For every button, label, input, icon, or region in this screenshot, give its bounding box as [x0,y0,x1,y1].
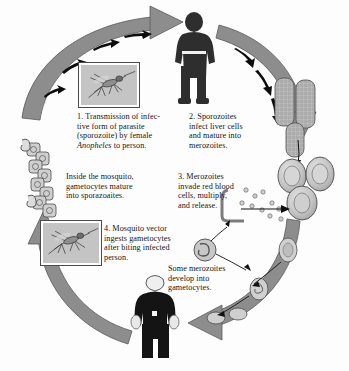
gametocyte-chain [21,139,56,217]
step-1-line-2: tive form of parasite [77,122,187,132]
mosquito-photo-bottom [40,220,102,266]
step-4-line-1: 4. Mosquito vector [104,224,208,234]
note-2-line-2: develop into [168,274,260,284]
step-4-line-4: person. [104,253,208,263]
note-1-line-3: into sporazoaites. [66,191,178,201]
step-1-line-4: Anopheles to person. [77,141,187,151]
step-1-text: 1. Transmission of infec- tive form of p… [77,112,187,150]
step-2-line-4: merozoites. [189,141,281,151]
step-3-text: 3. Merozoites invade red blood cells, mu… [178,172,262,210]
mosquito-illustration [43,223,99,263]
step-3-line-3: cells, multiply, [178,191,262,201]
step-4-line-3: after biting infected [104,243,208,253]
mosquito-photo-top [78,62,140,108]
step-4-text: 4. Mosquito vector ingests gametocytes a… [104,224,208,262]
person-standing-top [175,12,215,104]
step-3-line-2: invade red blood [178,182,262,192]
note-mosquito-interior-text: Inside the mosquito, gametocytes mature … [66,172,178,201]
note-gametocytes-text: Some merozoites develop into gametocytes… [168,264,260,293]
mosquito-illustration [81,65,137,105]
note-2-line-3: gametocytes. [168,283,260,293]
step-3-line-4: and release. [178,201,262,211]
anopheles-term: Anopheles [77,141,112,150]
note-1-line-2: gametocytes mature [66,182,178,192]
step-2-line-2: infect liver cells [189,122,281,132]
step-4-line-2: ingests gametocytes [104,234,208,244]
step-2-line-1: 2. Sporozoites [189,112,281,122]
step-2-line-3: and mature into [189,131,281,141]
bottom-caption [10,358,230,367]
malaria-cycle-figure: 1. Transmission of infec- tive form of p… [0,0,349,371]
note-2-line-1: Some merozoites [168,264,260,274]
step-1-line-1: 1. Transmission of infec- [77,112,187,122]
note-1-line-1: Inside the mosquito, [66,172,178,182]
step-2-text: 2. Sporozoites infect liver cells and ma… [189,112,281,150]
step-1-line-3: (sporozoite) by female [77,131,187,141]
step-3-line-1: 3. Merozoites [178,172,262,182]
